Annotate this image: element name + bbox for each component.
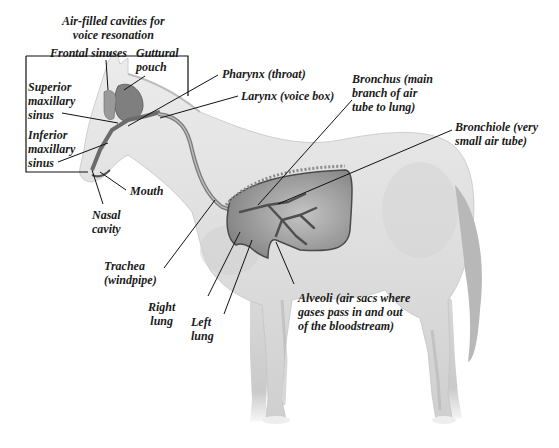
label-frontal-sinuses: Frontal sinuses	[50, 46, 127, 60]
label-pharynx: Pharynx (throat)	[222, 67, 306, 81]
label-right-lung: Right lung	[148, 300, 175, 328]
label-bronchiole: Bronchiole (very small air tube)	[455, 120, 538, 148]
label-air-cavities: Air-filled cavities for voice resonation	[62, 14, 165, 42]
sinus-shape	[104, 90, 116, 119]
label-mouth: Mouth	[130, 184, 163, 198]
label-nasal-cavity: Nasal cavity	[92, 208, 121, 236]
label-larynx: Larynx (voice box)	[241, 89, 334, 103]
label-inferior-maxillary-sinus: Inferior maxillary sinus	[28, 128, 75, 170]
label-guttural-pouch: Guttural pouch	[136, 46, 179, 74]
leader-mouth	[100, 172, 126, 190]
label-bronchus: Bronchus (main branch of air tube to lun…	[352, 72, 433, 114]
label-alveoli: Alveoli (air sacs where gases pass in an…	[298, 291, 410, 333]
label-trachea: Trachea (windpipe)	[104, 259, 157, 287]
label-superior-maxillary-sinus: Superior maxillary sinus	[28, 80, 75, 122]
label-left-lung: Left lung	[191, 315, 214, 343]
